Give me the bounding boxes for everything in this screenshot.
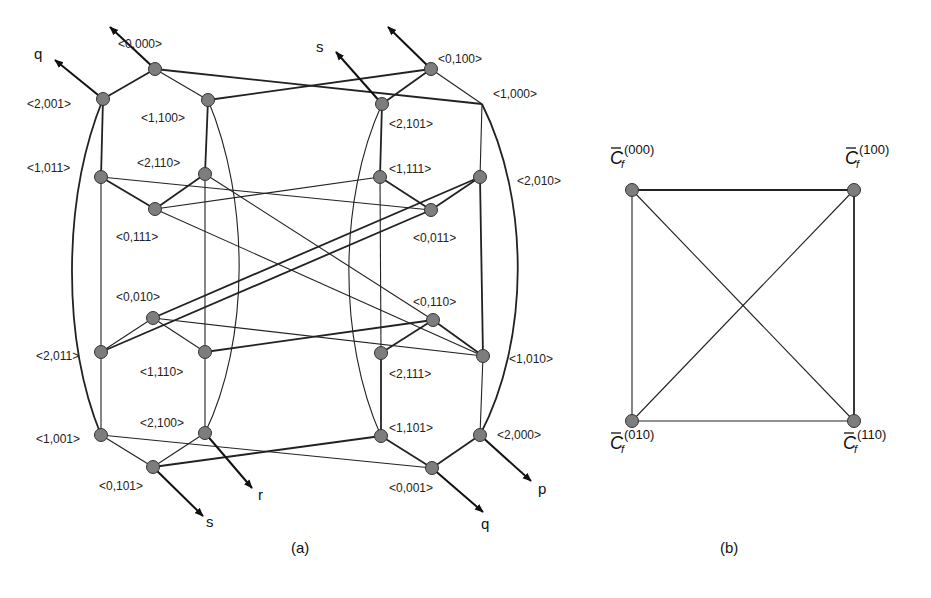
state-node bbox=[474, 429, 487, 442]
class-label-sub: f bbox=[621, 158, 625, 170]
output-arrow bbox=[432, 468, 483, 512]
state-node bbox=[97, 93, 110, 106]
state-node bbox=[425, 204, 438, 217]
edge-n2100-n0101 bbox=[153, 433, 205, 467]
class-label: Cf(010) bbox=[610, 427, 654, 455]
class-label: Cf(110) bbox=[843, 427, 886, 455]
arrow-label: p bbox=[538, 480, 546, 497]
edge-n1110-n0110 bbox=[205, 320, 433, 352]
state-node bbox=[199, 168, 212, 181]
state-node bbox=[199, 427, 212, 440]
state-label: <2,001> bbox=[27, 97, 71, 111]
output-arrow bbox=[205, 433, 252, 488]
class-label-sub: f bbox=[621, 443, 625, 455]
state-label: <0,111> bbox=[116, 230, 158, 244]
edge-n2010-n1010 bbox=[480, 177, 483, 356]
state-node bbox=[426, 462, 439, 475]
state-node bbox=[147, 312, 160, 325]
edge-n0010-n2011 bbox=[101, 318, 153, 352]
state-label: <1,010> bbox=[509, 352, 553, 366]
state-label: <0,101> bbox=[99, 479, 143, 493]
edge-n1100-n2110 bbox=[205, 100, 208, 174]
state-label: <0,001> bbox=[389, 481, 433, 495]
state-label: <2,011> bbox=[36, 349, 79, 363]
panel-b-class-graph: Cf(000)Cf(100)Cf(010)Cf(110) (b) bbox=[610, 142, 889, 556]
state-label: <2,000> bbox=[497, 428, 541, 442]
state-node bbox=[425, 63, 438, 76]
curved-edge bbox=[72, 99, 103, 435]
output-arrow bbox=[336, 52, 382, 104]
state-node bbox=[199, 346, 212, 359]
state-node bbox=[374, 171, 387, 184]
curved-edge bbox=[205, 100, 239, 433]
state-node bbox=[149, 203, 162, 216]
state-node bbox=[375, 347, 388, 360]
class-label: Cf(000) bbox=[610, 142, 654, 170]
state-node bbox=[95, 346, 108, 359]
panel-a-state-lattice: qsrsqp <0,000><0,100><2,001><1,100><2,10… bbox=[27, 27, 561, 556]
state-label: <2,010> bbox=[517, 174, 561, 188]
state-label: <1,000> bbox=[493, 87, 537, 101]
edge-n1111-n0011 bbox=[380, 177, 431, 210]
state-label: <1,101> bbox=[389, 421, 433, 435]
state-graph-figure: qsrsqp <0,000><0,100><2,001><1,100><2,10… bbox=[0, 0, 931, 598]
arrow-label: r bbox=[258, 486, 263, 503]
state-label: <0,011> bbox=[413, 231, 456, 245]
output-arrow bbox=[153, 467, 203, 516]
arrow-label: q bbox=[481, 515, 489, 532]
state-label: <0,100> bbox=[438, 52, 482, 66]
state-label: <0,000> bbox=[118, 37, 162, 51]
arrow-label: q bbox=[34, 45, 42, 62]
edge-n0101-n1101 bbox=[153, 436, 381, 467]
state-node bbox=[147, 461, 160, 474]
output-arrow bbox=[55, 60, 103, 99]
state-label: <1,100> bbox=[141, 111, 185, 125]
state-node bbox=[95, 429, 108, 442]
class-label-sub: f bbox=[856, 158, 860, 170]
curved-edge bbox=[480, 104, 518, 435]
edge-n0000-n2001 bbox=[103, 69, 155, 99]
state-node bbox=[427, 314, 440, 327]
edge-n2101-n1111 bbox=[380, 104, 382, 177]
edge-n2001-n1011 bbox=[101, 99, 103, 177]
edge-n0111-n1111 bbox=[155, 177, 380, 209]
edge-n2000-n0001 bbox=[432, 435, 480, 468]
curved-edges bbox=[72, 99, 518, 436]
class-label-sup: (000) bbox=[624, 142, 654, 157]
state-label: <2,110> bbox=[137, 156, 180, 170]
panel-b-caption: (b) bbox=[720, 539, 738, 556]
panel-a-caption: (a) bbox=[291, 539, 309, 556]
class-node bbox=[848, 415, 861, 428]
arrow-label: s bbox=[316, 38, 324, 55]
class-label-sub: f bbox=[854, 443, 858, 455]
class-node bbox=[626, 184, 639, 197]
edge-n2010-n0011 bbox=[431, 177, 480, 210]
edge-n1010-n2000 bbox=[480, 356, 483, 435]
state-label: <1,011> bbox=[27, 161, 70, 175]
state-node bbox=[376, 98, 389, 111]
state-node bbox=[202, 94, 215, 107]
class-node bbox=[626, 415, 639, 428]
class-label-sup: (010) bbox=[624, 427, 654, 442]
class-edges bbox=[632, 190, 854, 421]
state-label: <2,111> bbox=[389, 367, 431, 381]
class-label-sup: (110) bbox=[857, 427, 886, 442]
class-label-sup: (100) bbox=[859, 142, 889, 157]
state-label: <1,110> bbox=[140, 365, 183, 379]
state-label: <0,010> bbox=[116, 290, 160, 304]
class-node bbox=[848, 184, 861, 197]
state-label: <2,101> bbox=[389, 117, 433, 131]
state-label: <1,001> bbox=[36, 432, 80, 446]
output-arrow bbox=[388, 27, 431, 69]
state-label: <0,110> bbox=[413, 295, 456, 309]
state-node bbox=[474, 171, 487, 184]
state-node bbox=[375, 430, 388, 443]
state-node bbox=[477, 350, 490, 363]
arrow-label: s bbox=[206, 513, 214, 530]
edge-n1000-n2010 bbox=[480, 104, 482, 177]
edge-n2110-n0111 bbox=[155, 174, 205, 209]
class-label: Cf(100) bbox=[845, 142, 889, 170]
state-label: <2,100> bbox=[140, 416, 184, 430]
state-node bbox=[95, 171, 108, 184]
state-label: <1,111> bbox=[389, 162, 431, 176]
